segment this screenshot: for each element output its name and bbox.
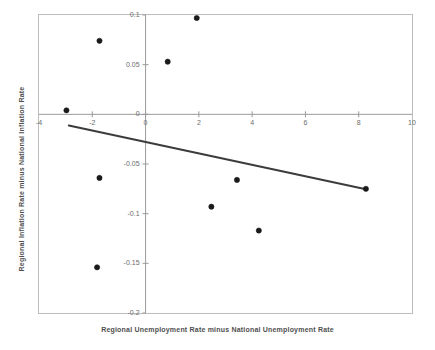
x-tick-label: 6 xyxy=(285,119,325,126)
x-tick-label: 10 xyxy=(392,119,432,126)
data-point xyxy=(363,186,368,191)
data-point xyxy=(165,59,170,64)
x-axis-title: Regional Unemployment Rate minus Nationa… xyxy=(0,326,435,333)
y-tick-label: -0.15 xyxy=(100,259,140,266)
data-point xyxy=(209,204,214,209)
data-point xyxy=(97,38,102,43)
y-tick-label: -0.1 xyxy=(100,210,140,217)
data-point xyxy=(97,175,102,180)
y-tick-label: 0.05 xyxy=(100,61,140,68)
trendline-segment xyxy=(69,126,366,190)
trendline xyxy=(69,126,366,190)
scatter-chart-figure: -4-202468100.10.050-0.05-0.1-0.15-0.2 Re… xyxy=(0,0,435,350)
y-tick-label: 0 xyxy=(100,110,140,117)
x-tick-label: 8 xyxy=(339,119,379,126)
plot-canvas xyxy=(0,0,435,350)
y-axis-title-container: Regional Inflation Rate minus National I… xyxy=(10,69,28,289)
data-point xyxy=(234,177,239,182)
data-point xyxy=(256,228,261,233)
y-tick-label: -0.2 xyxy=(100,309,140,316)
x-tick-label: -2 xyxy=(72,119,112,126)
x-tick-label: 2 xyxy=(179,119,219,126)
y-tick-label: 0.1 xyxy=(100,11,140,18)
x-tick-label: 4 xyxy=(232,119,272,126)
data-points xyxy=(64,15,369,270)
data-point xyxy=(194,15,199,20)
y-axis-title: Regional Inflation Rate minus National I… xyxy=(18,87,25,272)
data-point xyxy=(64,108,69,113)
y-tick-label: -0.05 xyxy=(100,160,140,167)
x-tick-label: 0 xyxy=(126,119,166,126)
